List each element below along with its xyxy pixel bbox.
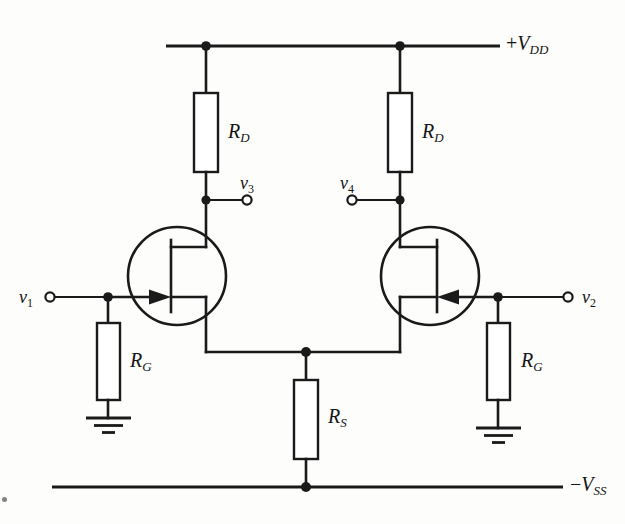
node-dot-vdd-right [395, 41, 405, 51]
terminal-v3[interactable] [242, 195, 251, 204]
terminal-v3-subscript: 3 [248, 182, 254, 196]
gate-resistor-left-symbol: R [130, 349, 142, 371]
jfet-left-envelope [128, 227, 226, 325]
positive-supply-label: +VDD [506, 33, 548, 56]
source-resistor-symbol: R [328, 405, 340, 427]
node-dot-v3 [201, 195, 210, 204]
drain-resistor-left-symbol: R [228, 120, 240, 142]
circuit-schematic [0, 0, 625, 524]
negative-supply-label: −VSS [570, 474, 607, 497]
drain-resistor-left-body [194, 93, 218, 172]
gate-resistor-left-subscript: G [142, 359, 151, 374]
gate-resistor-left-label: RG [130, 350, 152, 373]
source-resistor-label: RS [328, 406, 347, 429]
source-resistor-subscript: S [340, 415, 347, 430]
gate-resistor-right-label: RG [521, 350, 543, 373]
terminal-v4-subscript: 4 [348, 182, 354, 196]
positive-supply-symbol: V [517, 32, 529, 54]
terminal-v4-symbol: v [340, 173, 348, 193]
jfet-right-gate-arrow-icon [437, 290, 459, 305]
positive-supply-subscript: DD [530, 42, 549, 57]
drain-resistor-right-subscript: D [434, 130, 443, 145]
node-dot-vdd-left [201, 41, 211, 51]
terminal-v2-symbol: v [582, 287, 590, 307]
drain-resistor-left-label: RD [228, 121, 250, 144]
terminal-v4-label: v4 [340, 174, 354, 195]
gate-resistor-left-body [97, 323, 120, 400]
terminal-v3-symbol: v [240, 173, 248, 193]
drain-resistor-right-body [388, 93, 412, 172]
terminal-v3-label: v3 [240, 174, 254, 195]
jfet-right-envelope [381, 227, 479, 325]
node-dot-vss [301, 482, 311, 492]
gate-resistor-right-body [487, 323, 510, 400]
node-dot-v4 [395, 195, 404, 204]
page-corner-mark [2, 497, 7, 502]
ground-left-icon [86, 418, 131, 433]
negative-supply-symbol: V [581, 473, 593, 495]
terminal-v2-label: v2 [582, 288, 596, 309]
drain-resistor-right-symbol: R [422, 120, 434, 142]
positive-supply-sign: + [506, 32, 517, 54]
terminal-v2[interactable] [563, 292, 572, 301]
figure-canvas: +VDD −VSS RD RD RG RG RS v1 v2 v3 v4 [0, 0, 625, 524]
gate-resistor-right-symbol: R [521, 349, 533, 371]
drain-resistor-right-label: RD [422, 121, 444, 144]
terminal-v1[interactable] [45, 292, 54, 301]
gate-resistor-right-subscript: G [533, 359, 542, 374]
source-resistor-body [294, 380, 318, 459]
negative-supply-subscript: SS [594, 483, 607, 498]
terminal-v1-subscript: 1 [27, 296, 33, 310]
ground-right-icon [476, 428, 521, 443]
jfet-left-gate-arrow-icon [149, 290, 171, 305]
terminal-v4[interactable] [347, 195, 356, 204]
drain-resistor-left-subscript: D [240, 130, 249, 145]
terminal-v1-symbol: v [19, 287, 27, 307]
terminal-v1-label: v1 [19, 288, 33, 309]
negative-supply-sign: − [570, 473, 581, 495]
terminal-v2-subscript: 2 [590, 296, 596, 310]
